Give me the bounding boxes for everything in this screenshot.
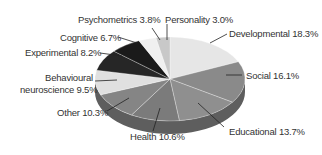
label-behavioural: Behavioural <box>45 72 93 83</box>
label-developmental: Developmental 18.3% <box>229 28 318 39</box>
label-social: Social 16.1% <box>246 70 299 81</box>
label-psychometrics: Psychometrics 3.8% <box>78 14 160 25</box>
label-educational: Educational 13.7% <box>229 126 305 137</box>
label-experimental: Experimental 8.2% <box>25 47 101 58</box>
label-health: Health 10.6% <box>130 131 185 142</box>
pie-slices <box>95 37 245 121</box>
label-other: Other 10.3% <box>57 107 108 118</box>
label-cognitive: Cognitive 6.7% <box>60 32 121 43</box>
label-neuroscience: neuroscience 9.5% <box>20 84 97 95</box>
label-personality: Personality 3.0% <box>165 14 233 25</box>
